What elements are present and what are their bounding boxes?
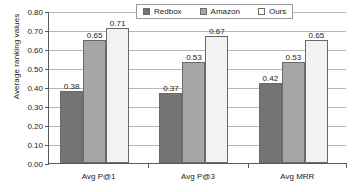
y-tick-label: 0.70 — [27, 27, 43, 36]
bar-redbox-avgp1: 0.38 — [60, 91, 83, 163]
bar-ours-avgp3: 0.67 — [205, 36, 228, 163]
bar-ours-avgp1: 0.71 — [106, 28, 129, 163]
bar-value-label: 0.42 — [263, 74, 279, 83]
legend-item-ours: Ours — [258, 7, 286, 16]
x-axis-label: Avg P@3 — [181, 172, 215, 181]
y-tick-label: 0.00 — [27, 160, 43, 169]
bar-amazon-avgp1: 0.65 — [83, 40, 106, 164]
bar-chart-figure: Average ranking values Redbox Amazon Our… — [0, 0, 360, 192]
bar-group: 0.380.650.71Avg P@1 — [49, 12, 148, 163]
y-tick-label: 0.50 — [27, 65, 43, 74]
bar-amazon-avgp3: 0.53 — [182, 62, 205, 163]
bar-group: 0.370.530.67Avg P@3 — [148, 12, 247, 163]
bar-ours-avgmrr: 0.65 — [305, 40, 328, 164]
y-tick-label: 0.80 — [27, 8, 43, 17]
legend-swatch-redbox — [143, 8, 150, 15]
y-tick-mark — [45, 164, 49, 165]
bar-redbox-avgmrr: 0.42 — [259, 83, 282, 163]
bar-value-label: 0.65 — [309, 31, 325, 40]
y-tick-label: 0.40 — [27, 84, 43, 93]
bar-value-label: 0.67 — [209, 27, 225, 36]
legend-item-amazon: Amazon — [200, 7, 240, 16]
bar-value-label: 0.65 — [87, 31, 103, 40]
y-tick-label: 0.60 — [27, 46, 43, 55]
y-axis-title: Average ranking values — [12, 0, 21, 127]
legend-item-redbox: Redbox — [143, 7, 182, 16]
x-tick-mark — [148, 163, 149, 168]
bar-value-label: 0.53 — [186, 53, 202, 62]
x-axis-label: Avg MRR — [280, 172, 314, 181]
legend-label-redbox: Redbox — [154, 7, 182, 16]
bar-value-label: 0.37 — [163, 84, 179, 93]
bar-value-label: 0.53 — [286, 53, 302, 62]
plot-area: 0.800.700.600.500.400.300.200.100.000.38… — [48, 12, 346, 164]
bar-value-label: 0.38 — [64, 82, 80, 91]
legend-swatch-ours — [258, 8, 265, 15]
bar-redbox-avgp3: 0.37 — [159, 93, 182, 163]
bar-amazon-avgmrr: 0.53 — [282, 62, 305, 163]
y-tick-label: 0.30 — [27, 103, 43, 112]
bar-value-label: 0.71 — [110, 19, 126, 28]
y-tick-label: 0.10 — [27, 141, 43, 150]
bar-group: 0.420.530.65Avg MRR — [248, 12, 347, 163]
legend-label-amazon: Amazon — [211, 7, 240, 16]
y-tick-label: 0.20 — [27, 122, 43, 131]
legend-swatch-amazon — [200, 8, 207, 15]
legend-label-ours: Ours — [269, 7, 286, 16]
chart-legend: Redbox Amazon Ours — [136, 4, 293, 19]
x-axis-label: Avg P@1 — [82, 172, 116, 181]
x-tick-mark — [248, 163, 249, 168]
x-tick-mark — [346, 163, 347, 168]
